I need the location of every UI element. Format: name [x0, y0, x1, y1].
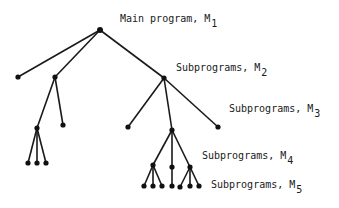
label-m1: Main program, M1 [120, 14, 217, 24]
tree-node-c1 [25, 160, 30, 165]
label-subscript: 4 [287, 155, 293, 166]
tree-edge [37, 128, 46, 163]
tree-node-f2 [150, 183, 155, 188]
label-m4: Subprograms, M4 [202, 151, 293, 161]
label-subscript: 1 [211, 18, 217, 29]
label-text: Subprograms, M [211, 179, 295, 190]
tree-edge [100, 30, 164, 78]
tree-node-f5 [177, 184, 182, 189]
tree-edge [172, 130, 190, 167]
label-subscript: 2 [261, 67, 267, 78]
tree-node-f1 [141, 183, 146, 188]
label-text: Subprograms, M [176, 62, 260, 73]
label-m2: Subprograms, M2 [176, 63, 267, 73]
tree-node-a1 [15, 74, 20, 79]
tree-node-d2 [169, 127, 174, 132]
tree-edge [190, 167, 199, 186]
label-text: Subprograms, M [229, 103, 313, 114]
tree-node-f3 [159, 183, 164, 188]
tree-edge [144, 165, 153, 186]
label-m5: Subprograms, M5 [211, 180, 302, 190]
label-text: Main program, M [120, 13, 210, 24]
tree-nodes [15, 27, 220, 190]
tree-node-a2 [52, 74, 57, 79]
tree-edge [18, 30, 100, 77]
tree-edge [164, 78, 172, 130]
tree-edge [28, 128, 37, 163]
label-subscript: 5 [296, 184, 302, 195]
tree-node-b2 [60, 122, 65, 127]
tree-edge [153, 130, 172, 165]
tree-node-a3 [161, 75, 166, 80]
tree-node-f7 [196, 183, 201, 188]
tree-edge [55, 30, 100, 77]
tree-edge [128, 78, 164, 127]
tree-node-e1 [150, 162, 155, 167]
tree-edge [153, 165, 162, 186]
tree-node-e2 [169, 164, 174, 169]
label-subscript: 3 [314, 108, 320, 119]
tree-node-c2 [34, 160, 39, 165]
tree-edge [37, 77, 55, 128]
tree-node-d1 [125, 124, 130, 129]
label-text: Subprograms, M [202, 150, 286, 161]
tree-node-b1 [34, 125, 39, 130]
tree-edge [164, 78, 218, 127]
tree-node-root [97, 27, 103, 33]
tree-node-f6 [187, 183, 192, 188]
tree-node-d3 [215, 124, 220, 129]
tree-node-c3 [43, 160, 48, 165]
tree-node-f4 [169, 183, 174, 188]
label-m3: Subprograms, M3 [229, 104, 320, 114]
tree-edge [55, 77, 63, 125]
tree-node-e3 [187, 164, 192, 169]
